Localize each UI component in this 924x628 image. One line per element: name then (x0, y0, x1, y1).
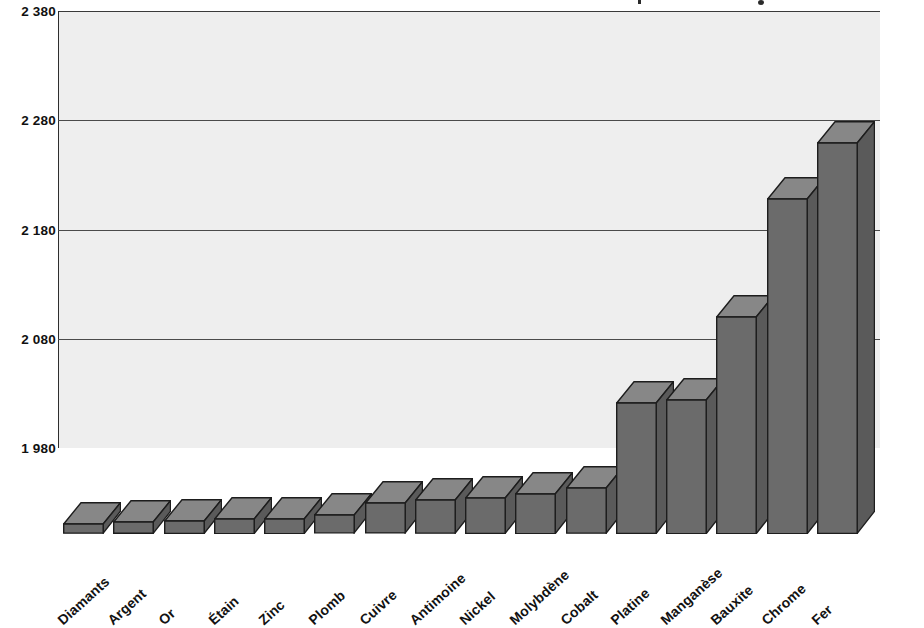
x-axis-tick-label: Plomb (306, 587, 349, 628)
x-axis-tick-label: Argent (105, 586, 150, 628)
x-axis-tick-label: Diamants (54, 573, 112, 628)
x-axis-tick-label: Zinc (255, 597, 287, 628)
x-axis-tick-label: Cobalt (557, 587, 601, 628)
x-axis-tick-label: Étain (205, 593, 242, 628)
x-axis-tick-label: Cuivre (356, 587, 400, 628)
x-axis-tick-label: Nickel (456, 588, 498, 628)
x-axis-tick-label: Chrome (758, 580, 808, 628)
x-axis-tick-label: Bauxite (708, 582, 757, 628)
x-axis-tick-label: Fer (808, 601, 835, 628)
x-axis-tick-label: Or (155, 605, 178, 628)
x-axis-tick-label: Platine (607, 585, 652, 628)
